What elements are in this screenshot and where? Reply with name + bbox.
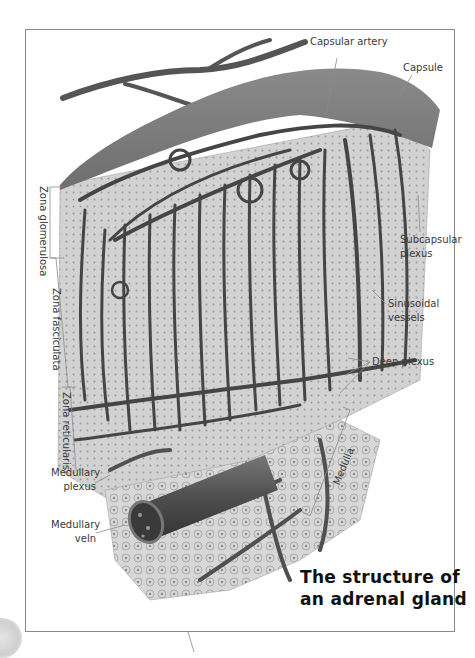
label-subcapsular-plexus-line2: plexus xyxy=(400,247,433,261)
label-zona-glomerulosa: Zona glomerulosa xyxy=(36,186,50,276)
label-medullary-plexus-line1: Medullary xyxy=(51,466,96,480)
label-medullary-vein-line2: veln xyxy=(51,532,96,546)
label-subcapsular-plexus-line1: Subcapsular xyxy=(400,233,462,247)
figure-title-line1: The structure of xyxy=(300,566,467,588)
figure-title: The structure of an adrenal gland xyxy=(300,566,467,610)
label-sinusoidal-vessels-line1: Sinusoidal xyxy=(388,297,439,311)
label-medullary-plexus-line2: plexus xyxy=(51,480,96,494)
label-zona-reticularis: Zona reticularis xyxy=(59,392,73,470)
label-deep-plexus: Deep plexus xyxy=(372,355,434,369)
label-capsular-artery: Capsular artery xyxy=(310,35,388,49)
label-sinusoidal-vessels-line2: vessels xyxy=(388,311,425,325)
label-zona-fasciculata: Zona fasciculata xyxy=(49,288,63,371)
label-capsule: Capsule xyxy=(403,61,443,75)
figure-title-line2: an adrenal gland xyxy=(300,588,467,610)
label-medullary-vein-line1: Medullary xyxy=(51,518,96,532)
